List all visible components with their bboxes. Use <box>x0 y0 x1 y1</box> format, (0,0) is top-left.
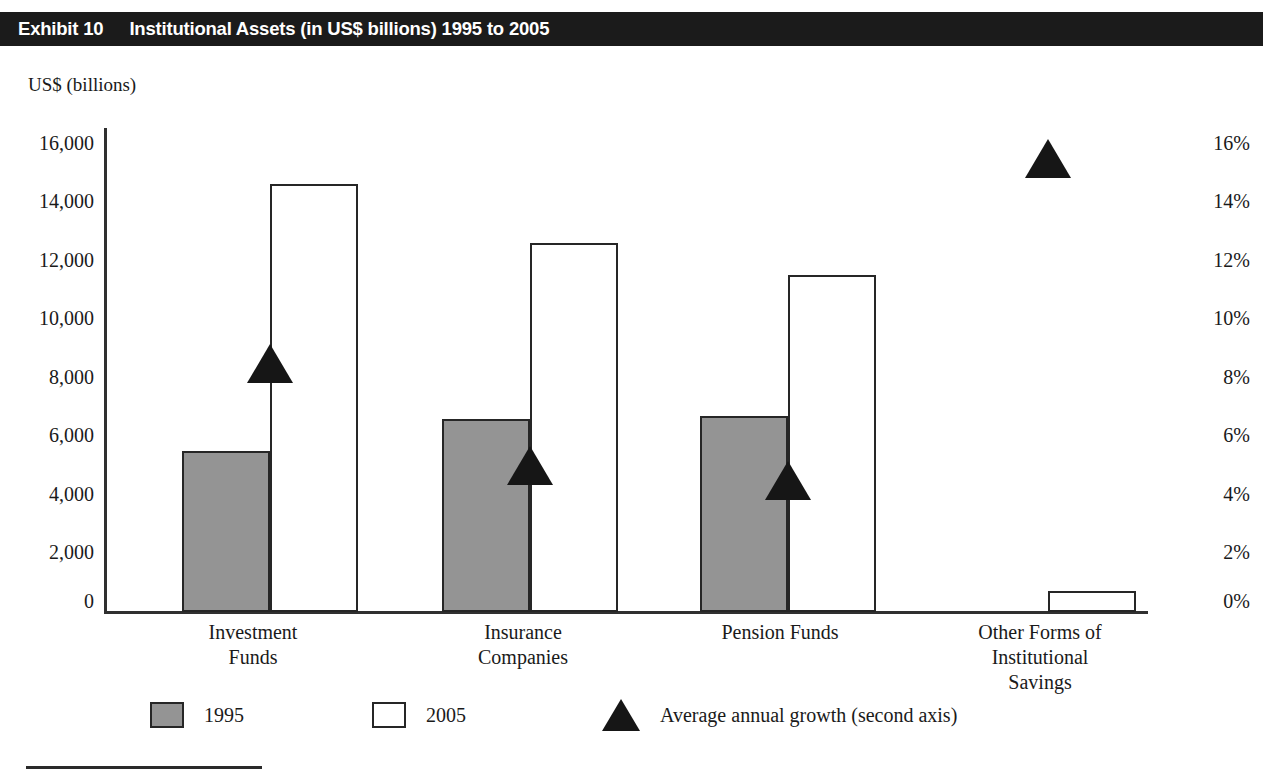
bar-2005-0 <box>270 184 358 612</box>
chart-legend: 1995 2005 Average annual growth (second … <box>150 698 1050 738</box>
legend-item-average-annual-growth: Average annual growth (second axis) <box>602 698 957 732</box>
bar-2005-2 <box>788 275 876 612</box>
y-axis-line <box>104 128 107 614</box>
growth-marker-triangle-2 <box>765 461 811 500</box>
x-category-label-pension-funds: Pension Funds <box>665 620 895 645</box>
growth-marker-triangle-3 <box>1025 139 1071 178</box>
bar-1995-2 <box>700 416 788 612</box>
bar-2005-1 <box>530 243 618 612</box>
y-tick-label-0: 0 <box>8 591 94 611</box>
growth-marker-triangle-1 <box>507 446 553 485</box>
footnote-rule <box>26 766 262 769</box>
legend-item-1995: 1995 <box>150 698 244 732</box>
x-category-label-investment-funds: Investment Funds <box>138 620 368 670</box>
legend-label-average-annual-growth: Average annual growth (second axis) <box>660 704 957 727</box>
y2-tick-label-6: 6% <box>1180 425 1250 445</box>
legend-label-2005: 2005 <box>426 704 466 727</box>
y2-tick-label-4: 4% <box>1180 484 1250 504</box>
growth-marker-triangle-0 <box>247 344 293 383</box>
legend-swatch-1995-icon <box>150 702 184 728</box>
legend-label-1995: 1995 <box>204 704 244 727</box>
y-tick-label-4000: 4,000 <box>8 484 94 504</box>
legend-triangle-icon <box>602 699 640 731</box>
y-tick-label-16000: 16,000 <box>8 133 94 153</box>
y-tick-label-10000: 10,000 <box>8 308 94 328</box>
chart-plot-area: 16,000 14,000 12,000 10,000 8,000 6,000 … <box>0 0 1263 775</box>
x-category-label-other-forms: Other Forms of Institutional Savings <box>925 620 1155 695</box>
legend-item-2005: 2005 <box>372 698 466 732</box>
x-category-label-insurance-companies: Insurance Companies <box>408 620 638 670</box>
y2-tick-label-10: 10% <box>1180 308 1250 328</box>
y2-tick-label-8: 8% <box>1180 367 1250 387</box>
y2-tick-label-2: 2% <box>1180 542 1250 562</box>
legend-swatch-2005-icon <box>372 702 406 728</box>
y-tick-label-2000: 2,000 <box>8 542 94 562</box>
bar-2005-3 <box>1048 591 1136 612</box>
bar-1995-0 <box>182 451 270 612</box>
y2-tick-label-14: 14% <box>1180 191 1250 211</box>
y2-tick-label-12: 12% <box>1180 250 1250 270</box>
y-tick-label-6000: 6,000 <box>8 425 94 445</box>
y2-tick-label-16: 16% <box>1180 133 1250 153</box>
y-tick-label-12000: 12,000 <box>8 250 94 270</box>
y-tick-label-8000: 8,000 <box>8 367 94 387</box>
y2-tick-label-0: 0% <box>1180 591 1250 611</box>
y-tick-label-14000: 14,000 <box>8 191 94 211</box>
